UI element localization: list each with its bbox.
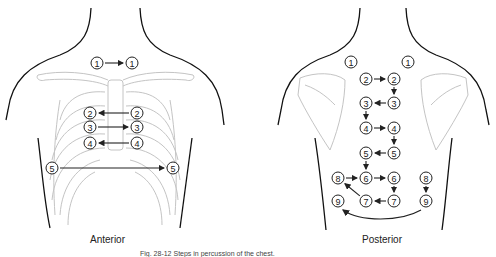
chest-percussion-diagram: 1122334455 112233445586689779 (0, 0, 496, 257)
percussion-point-4: 4 (131, 137, 143, 149)
percussion-point-1: 1 (402, 56, 414, 68)
svg-text:5: 5 (363, 149, 368, 159)
svg-text:4: 4 (87, 139, 92, 149)
percussion-point-5: 5 (388, 147, 400, 159)
svg-text:6: 6 (391, 174, 396, 184)
posterior-arrows (343, 79, 426, 219)
svg-text:3: 3 (87, 123, 92, 133)
percussion-point-1: 1 (126, 57, 138, 69)
svg-text:5: 5 (49, 164, 54, 174)
percussion-point-8: 8 (332, 172, 344, 184)
curved-arrow-9-to-9 (343, 210, 421, 219)
svg-text:5: 5 (391, 149, 396, 159)
svg-text:6: 6 (363, 174, 368, 184)
svg-text:2: 2 (87, 109, 92, 119)
svg-text:8: 8 (423, 174, 428, 184)
percussion-point-5: 5 (360, 147, 372, 159)
percussion-point-2: 2 (388, 73, 400, 85)
svg-text:1: 1 (348, 58, 353, 68)
svg-text:3: 3 (363, 99, 368, 109)
posterior-label: Posterior (362, 234, 402, 245)
percussion-point-1: 1 (345, 56, 357, 68)
svg-text:1: 1 (405, 58, 410, 68)
percussion-point-9: 9 (332, 195, 344, 207)
svg-text:9: 9 (335, 197, 340, 207)
svg-text:1: 1 (129, 59, 134, 69)
svg-text:4: 4 (391, 124, 396, 134)
percussion-point-6: 6 (360, 172, 372, 184)
svg-text:5: 5 (170, 164, 175, 174)
percussion-point-3: 3 (388, 97, 400, 109)
posterior-body-outline (278, 8, 489, 230)
percussion-point-7: 7 (360, 195, 372, 207)
svg-text:3: 3 (134, 123, 139, 133)
svg-text:2: 2 (391, 75, 396, 85)
percussion-point-5: 5 (46, 162, 58, 174)
anterior-points: 1122334455 (46, 57, 179, 174)
percussion-point-2: 2 (131, 107, 143, 119)
svg-text:7: 7 (391, 197, 396, 207)
posterior-scapulae (298, 74, 468, 150)
percussion-point-5: 5 (167, 162, 179, 174)
svg-text:4: 4 (363, 124, 368, 134)
svg-text:8: 8 (335, 174, 340, 184)
percussion-point-6: 6 (388, 172, 400, 184)
anterior-body-outline (6, 8, 224, 228)
percussion-point-4: 4 (84, 137, 96, 149)
percussion-point-3: 3 (360, 97, 372, 109)
percussion-point-8: 8 (420, 172, 432, 184)
svg-text:2: 2 (363, 75, 368, 85)
svg-text:7: 7 (363, 197, 368, 207)
percussion-point-9: 9 (420, 195, 432, 207)
svg-text:9: 9 (423, 197, 428, 207)
svg-text:3: 3 (391, 99, 396, 109)
svg-text:4: 4 (134, 139, 139, 149)
arrow (345, 184, 360, 196)
percussion-point-1: 1 (91, 57, 103, 69)
percussion-point-3: 3 (131, 121, 143, 133)
percussion-point-3: 3 (84, 121, 96, 133)
percussion-point-4: 4 (388, 122, 400, 134)
anterior-ribcage (37, 72, 194, 225)
percussion-point-2: 2 (84, 107, 96, 119)
percussion-point-7: 7 (388, 195, 400, 207)
anterior-label: Anterior (90, 234, 125, 245)
percussion-point-4: 4 (360, 122, 372, 134)
figure-caption: Fig. 28-12 Steps in percussion of the ch… (140, 250, 275, 257)
svg-text:1: 1 (94, 59, 99, 69)
percussion-point-2: 2 (360, 73, 372, 85)
svg-text:2: 2 (134, 109, 139, 119)
